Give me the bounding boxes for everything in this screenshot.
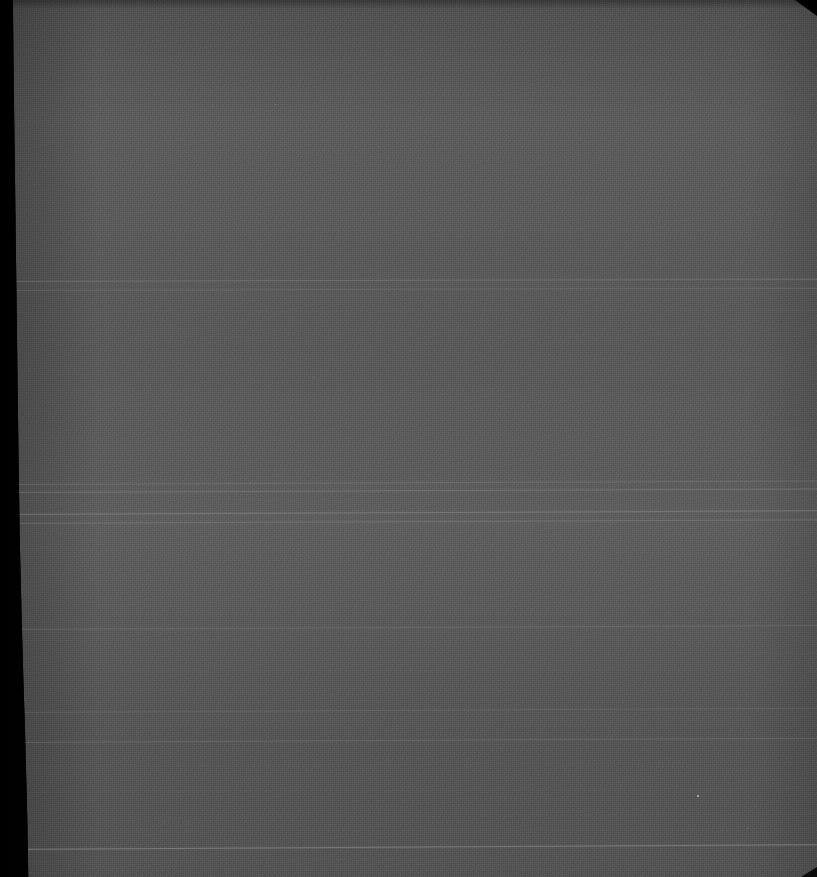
paper-field <box>0 0 817 877</box>
scanned-image-canvas: Severely underexposed archival scan: nea… <box>0 0 817 877</box>
